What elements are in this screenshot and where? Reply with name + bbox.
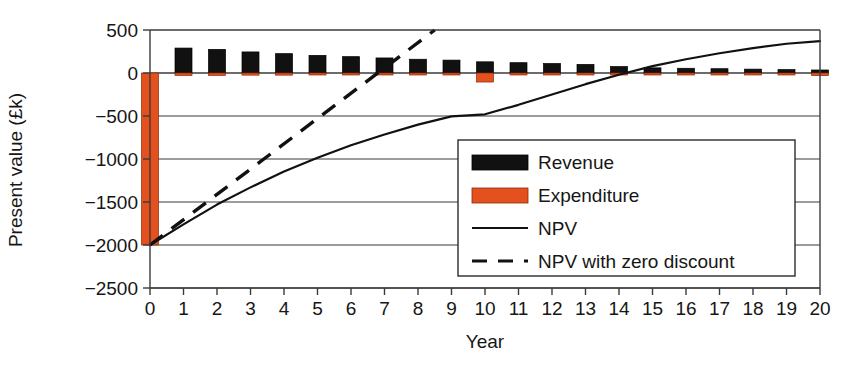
y-tick-label: −500 [95, 106, 138, 127]
x-tick-label: 3 [245, 298, 256, 319]
expenditure-bar [577, 73, 594, 75]
revenue-bar [778, 70, 795, 73]
y-axis-title: Present value (£k) [5, 93, 26, 247]
y-tick-label: 0 [127, 63, 138, 84]
expenditure-bar [510, 73, 527, 75]
y-tick-label: −2000 [85, 235, 138, 256]
x-tick-label: 20 [809, 298, 830, 319]
legend-label: Revenue [538, 152, 614, 173]
x-tick-label: 18 [742, 298, 763, 319]
x-tick-label: 8 [413, 298, 424, 319]
revenue-bar [309, 55, 326, 73]
x-tick-label: 5 [312, 298, 323, 319]
x-tick-label: 16 [675, 298, 696, 319]
revenue-bar [611, 67, 628, 73]
x-tick-label: 17 [709, 298, 730, 319]
expenditure-bar [778, 73, 795, 75]
expenditure-bar [544, 73, 561, 75]
expenditure-bar [242, 73, 259, 75]
revenue-bar [443, 60, 460, 73]
x-axis-ticks: 01234567891011121314151617181920 [145, 288, 831, 319]
legend-label: Expenditure [538, 185, 639, 206]
legend-swatch-revenue [472, 155, 528, 170]
x-tick-label: 11 [509, 298, 529, 319]
revenue-bar [410, 59, 427, 73]
expenditure-bar [343, 73, 360, 75]
y-axis-ticks: 5000−500−1000−1500−2000−2500 [85, 20, 150, 299]
expenditure-bar [175, 73, 192, 75]
revenue-bar [544, 64, 561, 73]
npv-chart-canvas: 5000−500−1000−1500−2000−2500 01234567891… [0, 0, 842, 371]
revenue-bar [711, 69, 728, 73]
y-tick-label: −1000 [85, 149, 138, 170]
x-tick-label: 4 [279, 298, 290, 319]
y-tick-label: 500 [106, 20, 138, 41]
x-tick-label: 12 [541, 298, 562, 319]
x-tick-label: 9 [446, 298, 457, 319]
revenue-bar [477, 62, 494, 73]
x-tick-label: 10 [474, 298, 495, 319]
legend-swatch-expenditure [472, 188, 528, 203]
expenditure-bar [678, 73, 695, 75]
x-tick-label: 2 [212, 298, 223, 319]
expenditure-bar [309, 73, 326, 75]
x-tick-label: 14 [608, 298, 630, 319]
revenue-bar [745, 69, 762, 73]
x-tick-label: 13 [575, 298, 596, 319]
expenditure-bar [276, 73, 293, 75]
expenditure-bar [410, 73, 427, 75]
x-tick-label: 19 [776, 298, 797, 319]
x-tick-label: 6 [346, 298, 357, 319]
legend-label: NPV with zero discount [538, 251, 735, 272]
y-tick-label: −2500 [85, 278, 138, 299]
legend-label: NPV [538, 218, 577, 239]
expenditure-bar [745, 73, 762, 75]
revenue-bar [276, 54, 293, 73]
x-tick-label: 1 [178, 298, 189, 319]
revenue-bar [510, 63, 527, 73]
x-axis-title: Year [466, 331, 505, 352]
expenditure-bar [644, 73, 661, 75]
chart-legend: RevenueExpenditureNPVNPV with zero disco… [458, 140, 795, 276]
x-tick-label: 15 [642, 298, 663, 319]
y-tick-label: −1500 [85, 192, 138, 213]
expenditure-bar [477, 73, 494, 82]
revenue-bar [343, 57, 360, 73]
revenue-bar [678, 68, 695, 73]
revenue-bar [209, 49, 226, 73]
revenue-bar [175, 48, 192, 73]
revenue-bar [577, 64, 594, 73]
x-tick-label: 7 [379, 298, 390, 319]
expenditure-bar [209, 73, 226, 75]
revenue-bar [242, 52, 259, 73]
chart-figure: 5000−500−1000−1500−2000−2500 01234567891… [0, 0, 842, 371]
expenditure-bar [711, 73, 728, 75]
x-tick-label: 0 [145, 298, 156, 319]
expenditure-bar [443, 73, 460, 75]
